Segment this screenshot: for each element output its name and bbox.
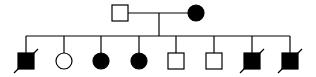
father-unaffected-male-square — [112, 5, 128, 21]
child-2-unaffected-female-circle — [56, 53, 72, 69]
pedigree-diagram — [0, 0, 316, 77]
child-6-unaffected-male-square — [206, 53, 222, 69]
child-3-affected-female-circle — [93, 53, 109, 69]
mother-affected-female-circle — [188, 5, 204, 21]
child-5-unaffected-male-square — [168, 53, 184, 69]
child-4-affected-female-circle — [131, 53, 147, 69]
